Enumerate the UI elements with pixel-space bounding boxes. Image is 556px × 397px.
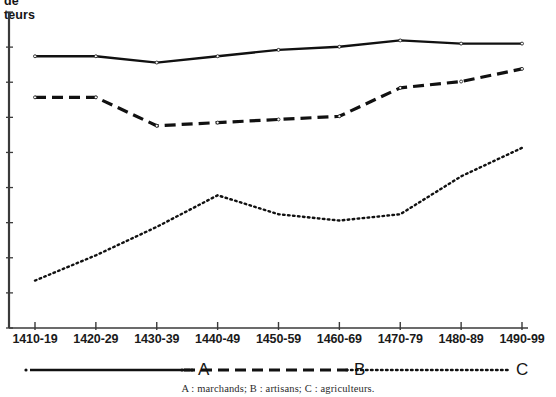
data-point-b: [216, 121, 219, 124]
data-point-b: [338, 115, 341, 118]
x-axis-tick-label: 1450-59: [256, 332, 301, 346]
x-axis-tick-label: 1410-19: [12, 332, 57, 346]
data-point-b: [399, 86, 402, 89]
data-point-a: [399, 39, 402, 42]
x-axis-tick-label: 1440-49: [195, 332, 240, 346]
x-axis-tick-label: 1480-89: [439, 332, 484, 346]
data-point-b: [34, 96, 37, 99]
legend-item-c: C: [340, 360, 528, 378]
data-point-a: [277, 48, 280, 51]
x-axis-tick-labels: 1410-191420-291430-391440-491450-591460-…: [0, 332, 556, 352]
data-point-b: [277, 118, 280, 121]
x-axis-tick-label: 1470-79: [378, 332, 423, 346]
chart-legend: A B C: [0, 358, 556, 380]
x-axis-tick-label: 1430-39: [134, 332, 179, 346]
data-point-a: [34, 55, 37, 58]
x-axis-tick-label: 1460-69: [317, 332, 362, 346]
series-line-b: [35, 69, 522, 126]
x-axis-tick-label: 1490-99: [499, 332, 544, 346]
legend-item-b: B: [178, 360, 365, 378]
data-point-a: [460, 42, 463, 45]
data-point-b: [155, 124, 158, 127]
legend-swatch-dotted: [340, 360, 515, 378]
data-point-b: [460, 80, 463, 83]
x-axis-tick-label: 1420-29: [73, 332, 118, 346]
data-point-a: [155, 61, 158, 64]
data-point-a: [521, 42, 524, 45]
data-point-a: [216, 55, 219, 58]
series-line-c: [35, 148, 522, 281]
legend-swatch-dashed: [178, 360, 353, 378]
data-point-b: [94, 96, 97, 99]
chart-svg: [0, 0, 556, 360]
plot-area: [0, 0, 556, 360]
legend-swatch-solid: [22, 360, 197, 378]
chart-axes: [6, 12, 528, 330]
chart-page: de teurs 1410-191420-291430-391440-49145…: [0, 0, 556, 397]
figure-caption: A : marchands; B : artisans; C : agricul…: [0, 383, 556, 394]
chart-series-layer: [34, 39, 524, 281]
data-point-b: [521, 67, 524, 70]
data-point-a: [94, 55, 97, 58]
data-point-a: [338, 45, 341, 48]
legend-label-c: C: [516, 361, 528, 378]
